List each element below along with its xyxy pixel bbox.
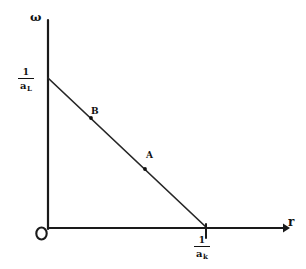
point-b-dot	[89, 116, 93, 120]
y-axis-label: ω	[30, 13, 41, 23]
y-intercept-label: 1 aL	[18, 68, 34, 92]
x-intercept-denominator-subscript: k	[202, 252, 207, 261]
x-intercept-label: 1 ak	[194, 236, 210, 260]
x-intercept-numerator: 1	[194, 236, 210, 246]
y-intercept-denominator: aL	[18, 80, 34, 92]
point-b-label: B	[91, 107, 99, 116]
y-intercept-numerator: 1	[18, 68, 34, 78]
y-intercept-fraction-bar	[18, 78, 34, 79]
point-a-dot	[143, 167, 147, 171]
x-intercept-fraction-bar	[194, 246, 210, 247]
data-line-segment	[48, 78, 207, 228]
plot-svg	[0, 0, 306, 269]
y-intercept-denominator-subscript: L	[26, 84, 31, 93]
figure-canvas: ω r O 1 aL 1 ak B A	[0, 0, 306, 269]
x-axis-label: r	[288, 216, 294, 228]
point-a-label: A	[146, 151, 153, 160]
x-intercept-denominator: ak	[194, 248, 210, 260]
